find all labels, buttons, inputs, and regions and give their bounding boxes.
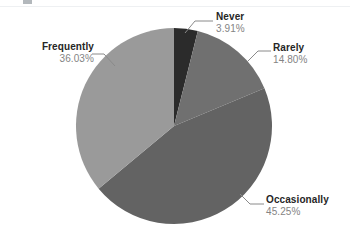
leader-line-rarely	[247, 51, 271, 62]
slice-label-frequently: Frequently 36.03%	[10, 41, 94, 65]
slice-label-frequently-value: 36.03%	[10, 53, 94, 65]
slice-label-frequently-name: Frequently	[10, 41, 94, 53]
slice-label-rarely-name: Rarely	[273, 42, 308, 54]
slice-label-never-value: 3.91%	[216, 23, 245, 35]
pie-chart-figure: Never 3.91% Rarely 14.80% Frequently 36.…	[0, 0, 350, 239]
slice-label-rarely: Rarely 14.80%	[273, 42, 308, 66]
slice-label-never: Never 3.91%	[216, 11, 245, 35]
slice-label-never-name: Never	[216, 11, 245, 23]
slice-label-occasionally-value: 45.25%	[266, 206, 329, 218]
slice-label-rarely-value: 14.80%	[273, 54, 308, 66]
slice-label-occasionally: Occasionally 45.25%	[266, 194, 329, 218]
leader-line-occasionally	[240, 194, 264, 204]
slice-label-occasionally-name: Occasionally	[266, 194, 329, 206]
